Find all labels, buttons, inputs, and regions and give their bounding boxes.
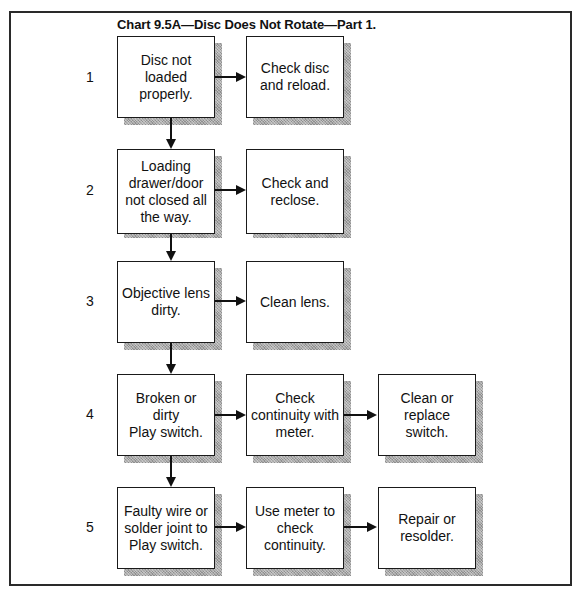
connector-line	[170, 456, 172, 478]
arrow-right-icon	[236, 522, 246, 532]
action-box-3: Clean lens.	[246, 261, 344, 343]
action-text-2: Check and reclose.	[262, 175, 329, 209]
action-box-4a: Check continuity with meter.	[246, 374, 344, 456]
step-number-3: 3	[82, 293, 98, 309]
chart-title: Chart 9.5A—Disc Does Not Rotate—Part 1.	[117, 17, 376, 32]
problem-text-3: Objective lens dirty.	[122, 285, 210, 319]
arrow-right-icon	[236, 296, 246, 306]
arrow-right-icon	[236, 410, 246, 420]
step-number-2: 2	[82, 182, 98, 198]
arrow-right-icon	[236, 72, 246, 82]
arrow-down-icon	[166, 139, 176, 149]
connector-line	[215, 300, 237, 302]
problem-box-2: Loading drawer/door not closed all the w…	[117, 149, 215, 234]
action-text-4b: Clean or replace switch.	[401, 390, 454, 441]
connector-line	[170, 343, 172, 365]
arrow-down-icon	[166, 251, 176, 261]
arrow-right-icon	[367, 410, 377, 420]
arrow-down-icon	[166, 364, 176, 374]
action-text-3: Clean lens.	[260, 294, 330, 311]
problem-text-4: Broken or dirty Play switch.	[122, 390, 210, 441]
action-box-5b: Repair or resolder.	[378, 487, 476, 569]
problem-box-1: Disc not loaded properly.	[117, 36, 215, 118]
step-number-4: 4	[82, 406, 98, 422]
step-number-1: 1	[82, 69, 98, 85]
action-text-4a: Check continuity with meter.	[251, 390, 339, 441]
problem-box-4: Broken or dirty Play switch.	[117, 374, 215, 456]
connector-line	[215, 76, 237, 78]
problem-text-2: Loading drawer/door not closed all the w…	[125, 158, 207, 226]
action-box-5a: Use meter to check continuity.	[246, 487, 344, 569]
connector-line	[215, 414, 237, 416]
action-box-1: Check disc and reload.	[246, 36, 344, 118]
action-text-5a: Use meter to check continuity.	[255, 503, 335, 554]
connector-line	[344, 526, 368, 528]
arrow-down-icon	[166, 477, 176, 487]
problem-box-5: Faulty wire or solder joint to Play swit…	[117, 487, 215, 569]
step-number-5: 5	[82, 519, 98, 535]
problem-text-1: Disc not loaded properly.	[139, 52, 192, 103]
arrow-right-icon	[367, 522, 377, 532]
connector-line	[215, 526, 237, 528]
action-text-5b: Repair or resolder.	[398, 511, 456, 545]
action-box-2: Check and reclose.	[246, 149, 344, 234]
connector-line	[170, 118, 172, 140]
action-box-4b: Clean or replace switch.	[378, 374, 476, 456]
problem-box-3: Objective lens dirty.	[117, 261, 215, 343]
arrow-right-icon	[236, 185, 246, 195]
connector-line	[170, 234, 172, 252]
connector-line	[215, 189, 237, 191]
action-text-1: Check disc and reload.	[260, 60, 330, 94]
problem-text-5: Faulty wire or solder joint to Play swit…	[124, 503, 208, 554]
connector-line	[344, 414, 368, 416]
